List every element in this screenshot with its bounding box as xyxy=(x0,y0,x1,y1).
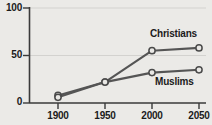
y-axis-tick-label-0: 0 xyxy=(0,96,22,107)
data-point-muslims-2050 xyxy=(196,67,202,73)
x-axis-tick-label-1900: 1900 xyxy=(38,110,78,121)
series-label-christians: Christians xyxy=(150,28,197,39)
series-label-muslims: Muslims xyxy=(155,76,194,87)
line-chart: 100 50 0 1900 1950 2000 2050 Christians … xyxy=(0,0,212,125)
x-axis-tick-label-1950: 1950 xyxy=(85,110,125,121)
data-point-christians-2000 xyxy=(149,48,155,54)
y-axis-tick-label-100: 100 xyxy=(0,2,22,13)
data-point-muslims-1900 xyxy=(55,94,61,100)
data-point-muslims-1950 xyxy=(102,79,108,85)
plot-area xyxy=(0,0,212,125)
y-axis-tick-label-50: 50 xyxy=(0,49,22,60)
x-axis-tick-label-2000: 2000 xyxy=(132,110,172,121)
data-point-christians-2050 xyxy=(196,45,202,51)
x-axis-tick-label-2050: 2050 xyxy=(179,110,212,121)
data-point-muslims-2000 xyxy=(149,70,155,76)
